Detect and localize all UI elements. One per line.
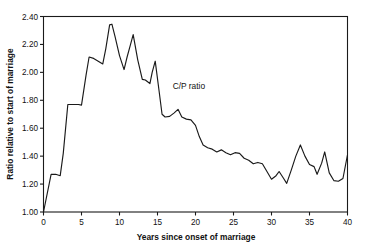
chart-figure: 1.001.201.401.601.802.002.202.40 0510152…	[0, 0, 365, 248]
x-tick-label: 40	[343, 218, 353, 227]
x-tick-label: 30	[267, 218, 277, 227]
y-tick-label: 2.20	[22, 40, 38, 49]
plot-frame	[44, 17, 348, 213]
y-tick-label: 1.20	[22, 180, 38, 189]
x-axis-title: Years since onset of marriage	[137, 232, 256, 242]
x-tick-label: 5	[79, 218, 84, 227]
y-tick-label: 1.80	[22, 96, 38, 105]
y-tick-label: 1.60	[22, 124, 38, 133]
y-tick-label: 1.40	[22, 152, 38, 161]
y-tick-label: 1.00	[22, 208, 38, 217]
x-tick-label: 25	[229, 218, 239, 227]
data-series-line	[44, 24, 348, 212]
x-tick-label: 15	[153, 218, 163, 227]
x-tick-label: 10	[115, 218, 125, 227]
x-tick-label: 20	[191, 218, 201, 227]
x-tick-label: 0	[41, 218, 46, 227]
line-chart: 1.001.201.401.601.802.002.202.40 0510152…	[0, 0, 365, 248]
y-tick-label: 2.00	[22, 68, 38, 77]
y-axis-title: Ratio relative to start of marriage	[5, 48, 15, 180]
x-axis-ticks: 0510152025303540	[41, 212, 352, 227]
y-axis-ticks: 1.001.201.401.601.802.002.202.40	[22, 13, 43, 218]
x-tick-label: 35	[305, 218, 315, 227]
y-tick-label: 2.40	[22, 13, 38, 22]
annotation-cp-ratio: C/P ratio	[173, 81, 206, 91]
